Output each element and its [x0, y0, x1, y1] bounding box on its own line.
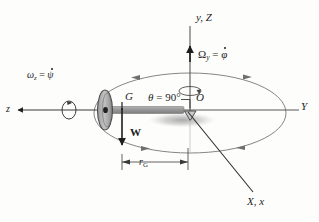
degree-symbol: ° — [176, 91, 180, 103]
third-axis-label: X, x — [247, 196, 264, 207]
spin-rate-label: ωz = ψ — [27, 70, 54, 82]
ground-shadow — [148, 113, 216, 128]
orbit-arrow-bottom-left — [141, 146, 150, 151]
psi-dot-symbol: ψ — [47, 70, 53, 80]
diagram-canvas — [0, 0, 319, 222]
phi-dot-symbol: φ — [221, 49, 227, 60]
equals-sign-spin: = — [39, 69, 45, 80]
gyroscope-diagram: y, Z Ωy = φ ωz = ψ z G θ = 90° O Y W rG … — [0, 0, 319, 222]
horizontal-axis-label: Y — [301, 101, 307, 112]
vertical-axis-label: y, Z — [196, 12, 212, 23]
equals-sign-theta: = — [156, 91, 162, 103]
theta-value: 90 — [165, 91, 176, 103]
x-axis-line — [188, 112, 253, 192]
radius-dimension-arrow-right — [180, 160, 188, 165]
omega-subscript: y — [206, 53, 209, 62]
theta-symbol: θ — [148, 91, 153, 103]
origin-label: O — [196, 92, 204, 103]
spin-axis-label: z — [6, 104, 10, 114]
radius-dimension-arrow-left — [122, 160, 130, 165]
omega-z-subscript: z — [34, 74, 37, 81]
shaft-bar — [106, 107, 184, 114]
mass-center-label: G — [125, 91, 133, 102]
nutation-angle-label: θ = 90° — [148, 92, 181, 103]
rotor-hub-dot — [103, 107, 108, 113]
orbit-arrow-top-right — [243, 75, 252, 80]
equals-sign: = — [212, 48, 218, 60]
omega-z-symbol: ω — [27, 69, 34, 80]
orbit-arrow-bottom-right — [236, 146, 245, 151]
radius-subscript: G — [143, 161, 148, 168]
precession-rate-label: Ωy = φ — [198, 49, 227, 62]
weight-vector-label: W — [130, 127, 141, 138]
orbit-arrow-top-left — [131, 75, 140, 80]
radius-dimension-label: rG — [139, 157, 148, 169]
omega-symbol: Ω — [198, 48, 206, 60]
